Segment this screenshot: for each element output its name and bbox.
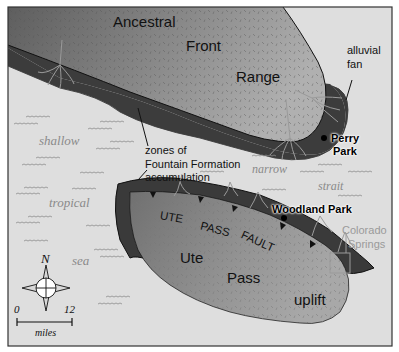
alluvial-label-line1: alluvial [347, 45, 381, 56]
place-perry-line2: Park [333, 146, 357, 157]
perry-park-dot [321, 135, 327, 141]
zones-label-line2: Fountain Formation [145, 159, 240, 170]
zones-label-line3: accumulation [145, 172, 210, 183]
place-colorado-line2: Springs [348, 239, 385, 250]
place-woodland-park: Woodland Park [272, 204, 352, 215]
sea-word-tropical: tropical [49, 196, 90, 209]
zones-label-line1: zones of [145, 145, 187, 156]
place-perry-line1: Perry [331, 133, 359, 144]
scale-min-label: 0 [14, 304, 20, 315]
sea-word-narrow: narrow [252, 163, 287, 175]
label-ute: Ute [180, 250, 203, 265]
label-ancestral: Ancestral [113, 14, 176, 29]
label-uplift: uplift [294, 292, 326, 307]
label-front: Front [186, 38, 221, 53]
alluvial-label-line2: fan [347, 59, 362, 70]
sea-word-strait: strait [318, 180, 343, 192]
scale-max-label: 12 [64, 304, 75, 315]
label-pass: Pass [227, 270, 260, 285]
compass-north-label: N [41, 252, 50, 265]
scale-unit-label: miles [35, 328, 56, 338]
sea-word-sea: sea [72, 254, 89, 267]
woodland-park-dot [281, 215, 287, 221]
sea-word-shallow: shallow [39, 134, 79, 147]
place-colorado-line1: Colorado [342, 225, 387, 236]
label-range: Range [236, 69, 280, 84]
